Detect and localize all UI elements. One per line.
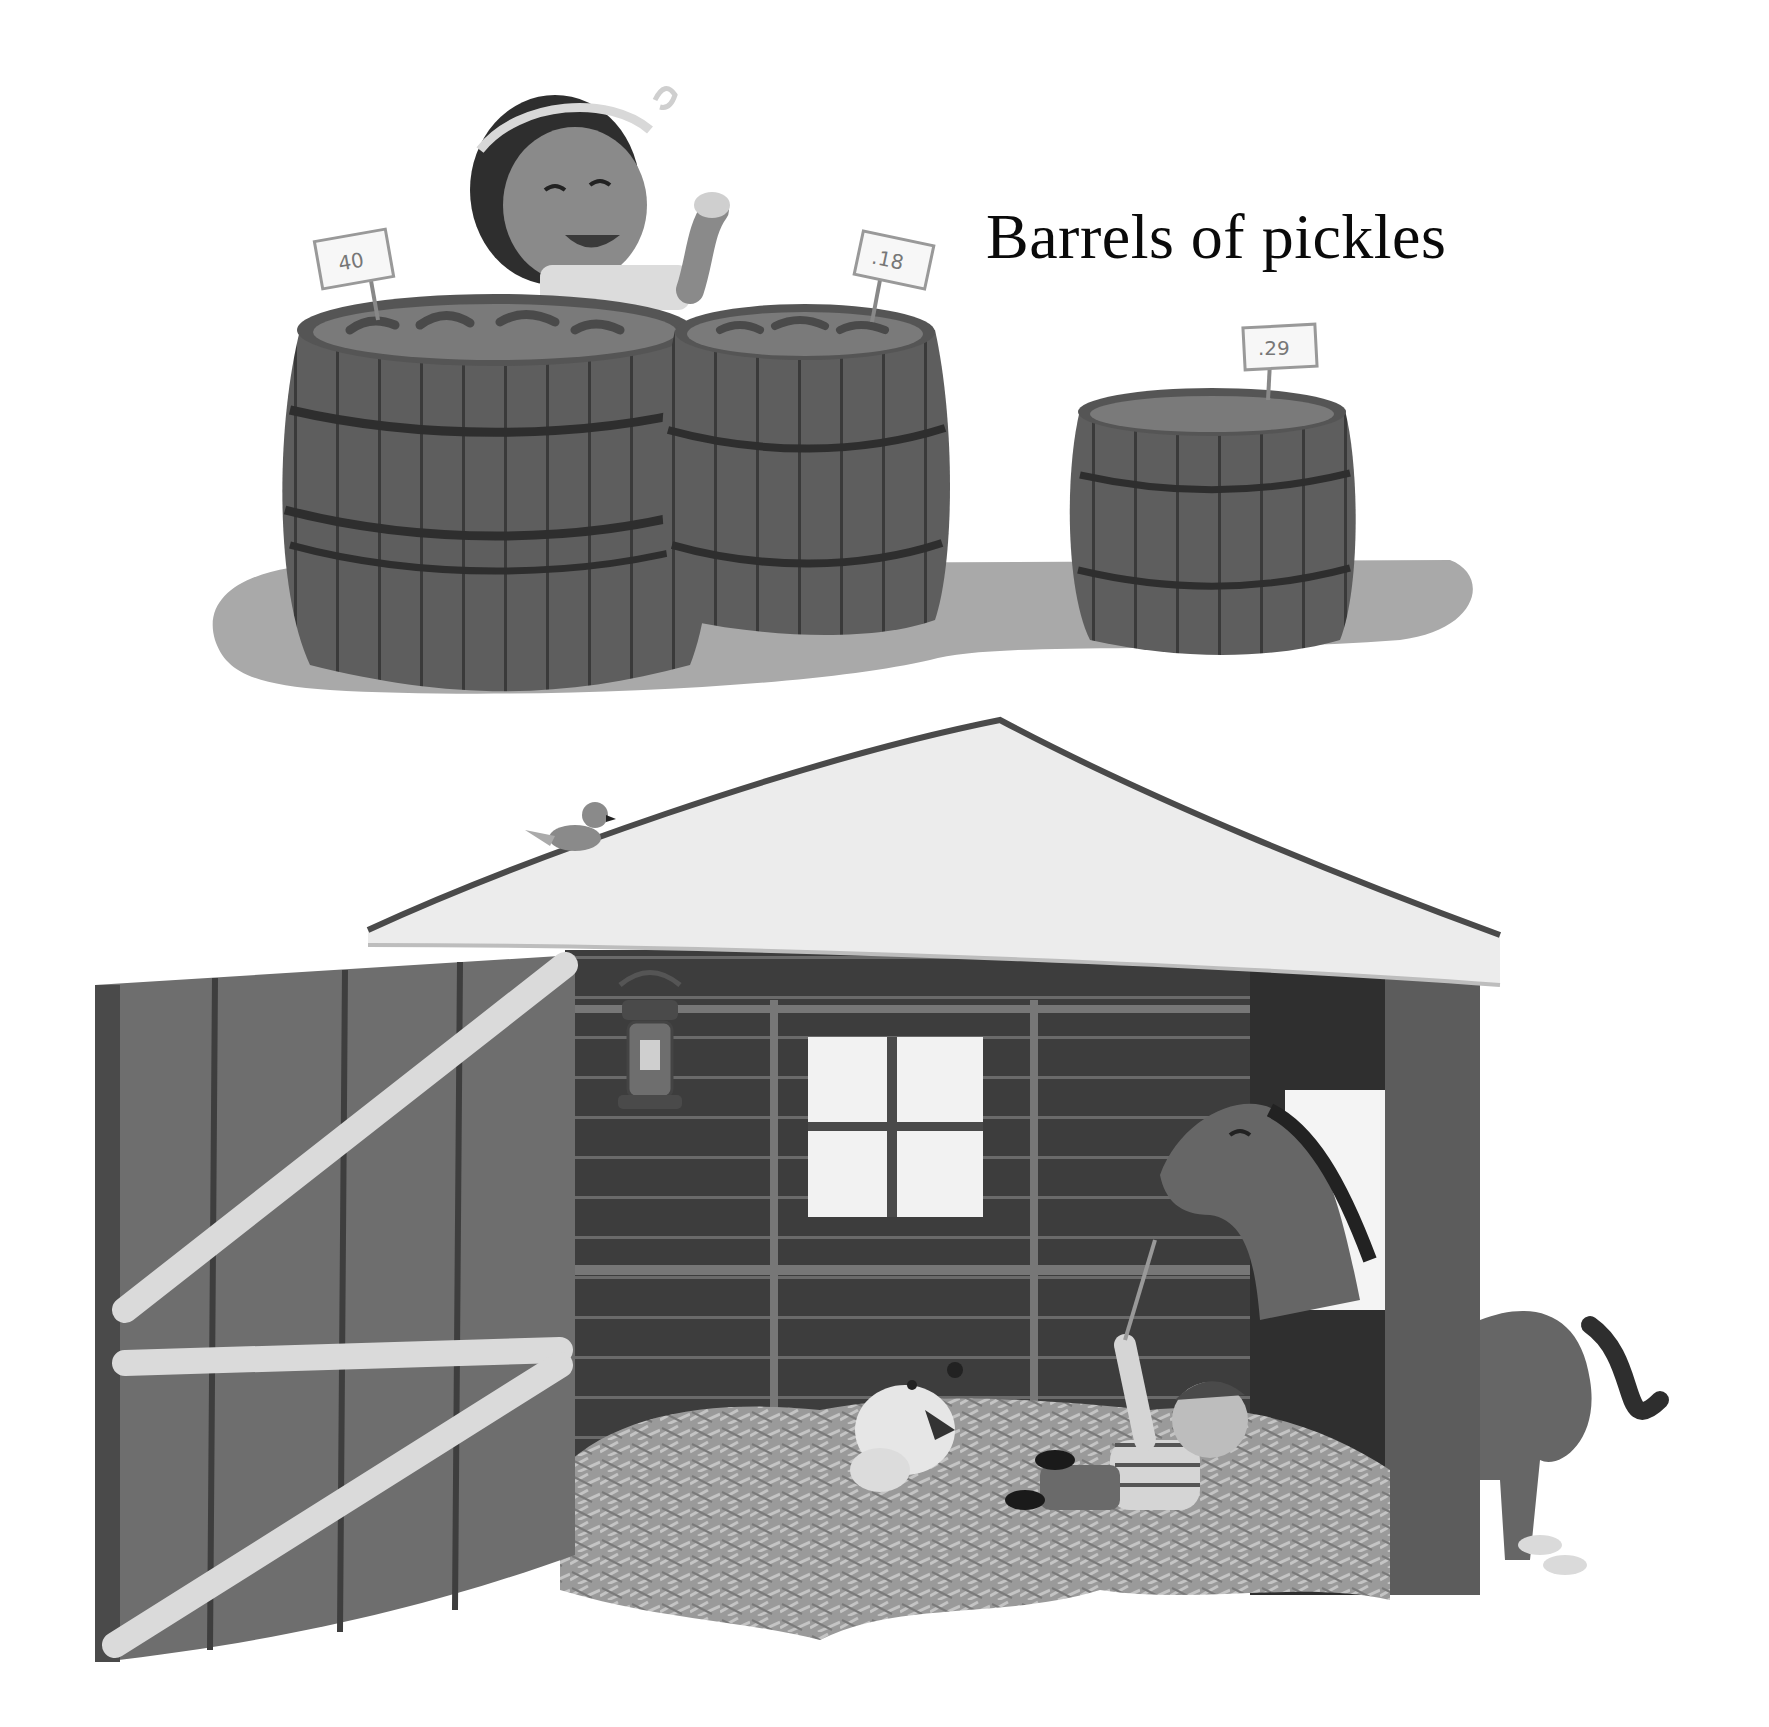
barrel-left <box>282 294 712 691</box>
barn-roof <box>368 720 1500 985</box>
price-tag-29: .29 <box>1243 324 1317 400</box>
barn-window <box>808 1037 983 1217</box>
girl-eating-pickle <box>470 89 730 310</box>
barrel-right <box>1070 388 1356 655</box>
barrels-scene: 40 .18 .29 <box>213 89 1473 694</box>
straw-pile <box>560 1398 1390 1640</box>
barn-post <box>1385 955 1480 1595</box>
illustration: 40 .18 .29 <box>0 0 1769 1727</box>
svg-text:.29: .29 <box>1258 336 1290 360</box>
barn-door <box>95 955 575 1662</box>
barn-scene <box>95 720 1660 1662</box>
barrel-middle <box>661 304 950 635</box>
svg-text:40: 40 <box>337 248 366 276</box>
